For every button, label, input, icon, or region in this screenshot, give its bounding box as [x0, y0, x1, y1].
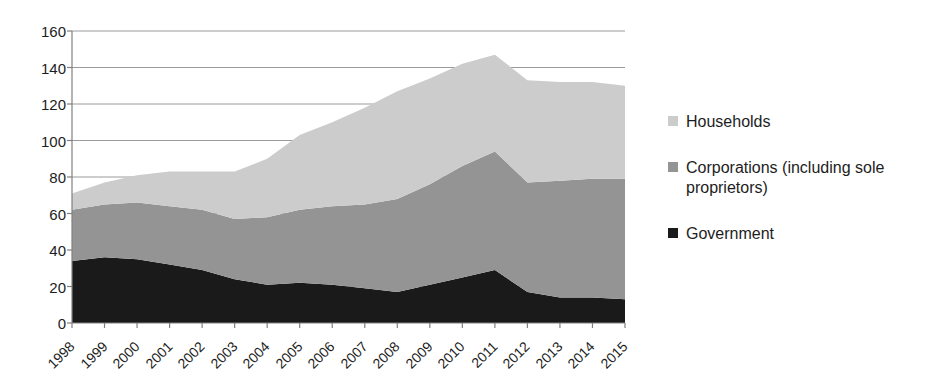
legend-swatch-government — [668, 228, 678, 238]
legend-label-households: Households — [686, 112, 771, 132]
legend-item-corporations[interactable]: Corporations (including soleproprietors) — [668, 158, 936, 198]
legend-swatch-corporations — [668, 162, 678, 172]
legend-swatch-households — [668, 116, 678, 126]
legend-label-government: Government — [686, 224, 774, 244]
legend-label-corporations: Corporations (including soleproprietors) — [686, 158, 884, 198]
chart-figure: 020406080100120140160 199819992000200120… — [0, 0, 946, 386]
legend-item-government[interactable]: Government — [668, 224, 936, 244]
chart-legend: Households Corporations (including solep… — [668, 112, 936, 270]
legend-item-households[interactable]: Households — [668, 112, 936, 132]
